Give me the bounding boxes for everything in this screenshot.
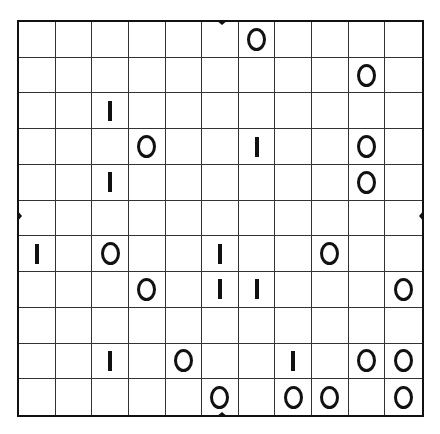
- grid-cell[interactable]: [202, 236, 239, 272]
- grid-cell[interactable]: [166, 93, 203, 129]
- grid-cell[interactable]: [19, 58, 56, 94]
- grid-cell[interactable]: [202, 93, 239, 129]
- grid-cell[interactable]: [239, 93, 276, 129]
- grid-cell[interactable]: [202, 379, 239, 415]
- grid-cell[interactable]: [312, 201, 349, 237]
- grid-cell[interactable]: [239, 379, 276, 415]
- grid-cell[interactable]: [239, 344, 276, 380]
- grid-cell[interactable]: [166, 272, 203, 308]
- grid-cell[interactable]: [166, 129, 203, 165]
- grid-cell[interactable]: [349, 201, 386, 237]
- grid-cell[interactable]: [202, 272, 239, 308]
- grid-cell[interactable]: [239, 308, 276, 344]
- grid-cell[interactable]: [312, 344, 349, 380]
- grid-cell[interactable]: [56, 93, 93, 129]
- grid-cell[interactable]: [19, 22, 56, 58]
- grid-cell[interactable]: [92, 22, 129, 58]
- grid-cell[interactable]: [385, 165, 422, 201]
- grid-cell[interactable]: [56, 236, 93, 272]
- grid-cell[interactable]: [385, 344, 422, 380]
- grid-cell[interactable]: [19, 272, 56, 308]
- grid-cell[interactable]: [166, 165, 203, 201]
- grid-cell[interactable]: [92, 344, 129, 380]
- grid-cell[interactable]: [129, 129, 166, 165]
- grid-cell[interactable]: [312, 236, 349, 272]
- grid-cell[interactable]: [275, 22, 312, 58]
- grid-cell[interactable]: [312, 58, 349, 94]
- grid-cell[interactable]: [275, 93, 312, 129]
- grid-cell[interactable]: [202, 201, 239, 237]
- grid-cell[interactable]: [385, 93, 422, 129]
- grid-cell[interactable]: [275, 236, 312, 272]
- grid-cell[interactable]: [56, 379, 93, 415]
- grid-cell[interactable]: [312, 272, 349, 308]
- grid-cell[interactable]: [129, 201, 166, 237]
- grid-cell[interactable]: [349, 129, 386, 165]
- grid-cell[interactable]: [166, 236, 203, 272]
- grid-cell[interactable]: [19, 129, 56, 165]
- grid-cell[interactable]: [239, 236, 276, 272]
- grid-cell[interactable]: [385, 308, 422, 344]
- grid-cell[interactable]: [275, 58, 312, 94]
- grid-cell[interactable]: [239, 129, 276, 165]
- grid-cell[interactable]: [349, 22, 386, 58]
- grid-cell[interactable]: [275, 308, 312, 344]
- grid-cell[interactable]: [129, 165, 166, 201]
- grid-cell[interactable]: [92, 58, 129, 94]
- grid-cell[interactable]: [56, 308, 93, 344]
- grid-cell[interactable]: [56, 58, 93, 94]
- grid-cell[interactable]: [385, 58, 422, 94]
- grid-cell[interactable]: [129, 308, 166, 344]
- grid-cell[interactable]: [312, 308, 349, 344]
- grid-cell[interactable]: [166, 58, 203, 94]
- grid-cell[interactable]: [349, 344, 386, 380]
- grid-cell[interactable]: [56, 22, 93, 58]
- grid-cell[interactable]: [349, 379, 386, 415]
- grid-cell[interactable]: [275, 379, 312, 415]
- grid-cell[interactable]: [19, 93, 56, 129]
- grid-cell[interactable]: [275, 201, 312, 237]
- grid-cell[interactable]: [385, 272, 422, 308]
- grid-cell[interactable]: [275, 344, 312, 380]
- grid-cell[interactable]: [349, 236, 386, 272]
- grid-cell[interactable]: [166, 344, 203, 380]
- grid-cell[interactable]: [202, 165, 239, 201]
- grid-cell[interactable]: [312, 129, 349, 165]
- grid-cell[interactable]: [56, 344, 93, 380]
- grid-cell[interactable]: [239, 201, 276, 237]
- grid-cell[interactable]: [202, 58, 239, 94]
- grid-cell[interactable]: [129, 236, 166, 272]
- grid-cell[interactable]: [56, 129, 93, 165]
- grid-cell[interactable]: [129, 58, 166, 94]
- grid-cell[interactable]: [202, 344, 239, 380]
- grid-cell[interactable]: [92, 308, 129, 344]
- grid-cell[interactable]: [349, 58, 386, 94]
- grid-cell[interactable]: [129, 379, 166, 415]
- grid-cell[interactable]: [166, 379, 203, 415]
- grid-cell[interactable]: [312, 22, 349, 58]
- grid-cell[interactable]: [92, 165, 129, 201]
- grid-cell[interactable]: [19, 344, 56, 380]
- grid-cell[interactable]: [129, 22, 166, 58]
- grid-cell[interactable]: [92, 129, 129, 165]
- grid-cell[interactable]: [92, 93, 129, 129]
- grid-cell[interactable]: [239, 165, 276, 201]
- grid-cell[interactable]: [56, 201, 93, 237]
- grid-cell[interactable]: [312, 93, 349, 129]
- grid-cell[interactable]: [166, 308, 203, 344]
- grid-cell[interactable]: [92, 379, 129, 415]
- grid-cell[interactable]: [129, 93, 166, 129]
- grid-cell[interactable]: [92, 201, 129, 237]
- grid-cell[interactable]: [275, 165, 312, 201]
- grid-cell[interactable]: [385, 201, 422, 237]
- grid-cell[interactable]: [19, 308, 56, 344]
- grid-cell[interactable]: [385, 22, 422, 58]
- grid-cell[interactable]: [19, 201, 56, 237]
- grid-cell[interactable]: [385, 236, 422, 272]
- grid-cell[interactable]: [312, 165, 349, 201]
- grid-cell[interactable]: [166, 22, 203, 58]
- grid-cell[interactable]: [56, 272, 93, 308]
- grid-cell[interactable]: [349, 93, 386, 129]
- grid-cell[interactable]: [239, 272, 276, 308]
- grid-cell[interactable]: [349, 308, 386, 344]
